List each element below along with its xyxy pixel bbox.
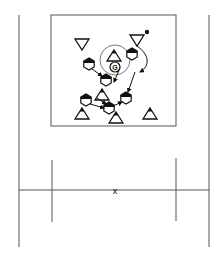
- player-marker: [101, 74, 111, 79]
- pass-arrow: [92, 69, 102, 76]
- pass-arrow: [128, 72, 135, 92]
- cone-down-icon: [75, 39, 89, 50]
- center-mark: x: [113, 186, 118, 196]
- player-marker: [84, 58, 94, 63]
- player-marker: [127, 48, 137, 53]
- cone-down-icon: [130, 35, 144, 46]
- player-marker: [121, 92, 131, 97]
- ball-icon: [145, 30, 149, 34]
- goalkeeper-label: G: [112, 64, 118, 71]
- player-marker: [104, 102, 114, 107]
- drill-diagram: xG: [0, 0, 218, 253]
- pass-arrow: [113, 102, 122, 106]
- player-marker: [81, 94, 91, 99]
- pass-arrow: [90, 104, 104, 108]
- run-path-arrow: [137, 46, 147, 72]
